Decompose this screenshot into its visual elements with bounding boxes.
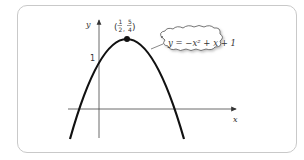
parabola-chart: x y 1 ( 1 2 , 5 4 ) y = −x² + x + 1 — [0, 0, 304, 160]
parabola-curve — [70, 39, 184, 139]
equation-callout: y = −x² + x + 1 — [151, 26, 236, 51]
equation-label: y = −x² + x + 1 — [167, 38, 236, 48]
svg-text:): ) — [132, 22, 136, 32]
svg-text:(: ( — [114, 22, 118, 32]
svg-text:2: 2 — [119, 26, 123, 33]
vertex-label: ( 1 2 , 5 4 ) — [114, 18, 136, 33]
svg-text:,: , — [123, 25, 125, 32]
svg-text:1: 1 — [119, 18, 123, 25]
vertex-point — [124, 36, 130, 42]
x-axis-label: x — [233, 115, 238, 124]
y-tick-label: 1 — [90, 54, 95, 63]
y-axis-label: y — [85, 20, 91, 29]
